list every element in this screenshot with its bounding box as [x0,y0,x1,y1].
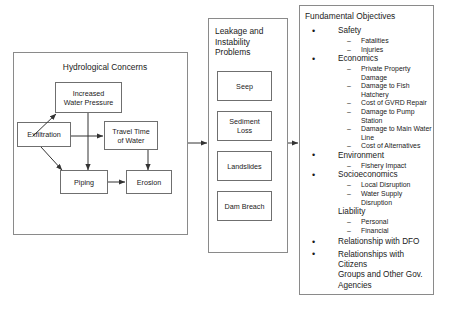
edge-exfiltration-to-pressure [33,114,56,136]
diagram-canvas: Hydrological Concerns Increased Water Pr… [0,0,449,313]
connector-layer [0,0,449,313]
edge-exfiltration-to-piping [41,147,62,170]
